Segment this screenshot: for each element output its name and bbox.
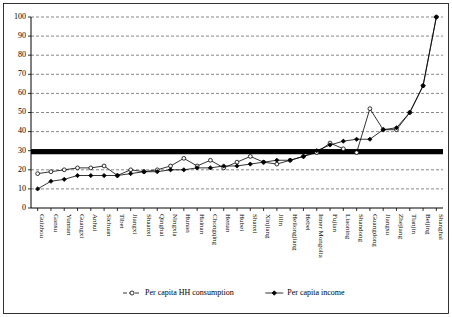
data-point bbox=[76, 166, 80, 170]
x-tick-label: Yunnan bbox=[65, 214, 73, 236]
y-tick-label: 60 bbox=[18, 88, 26, 97]
x-tick-label: Tianjin bbox=[410, 214, 418, 234]
data-point bbox=[49, 170, 53, 174]
national-average-bar bbox=[31, 149, 443, 154]
data-series-group bbox=[36, 15, 439, 191]
x-tick-label: Qinghai bbox=[158, 214, 166, 237]
y-tick-label: 80 bbox=[18, 50, 26, 59]
x-tick-label: Jiangsu bbox=[384, 214, 392, 236]
data-point bbox=[275, 158, 279, 162]
y-axis-labels-group: 0102030405060708090100 bbox=[14, 12, 26, 212]
x-tick-label: Hubei bbox=[238, 214, 246, 231]
data-point bbox=[209, 158, 213, 162]
data-point bbox=[368, 107, 372, 111]
legend: Per capita HH consumptionPer capita inco… bbox=[123, 288, 345, 297]
reference-bar-group bbox=[31, 149, 443, 154]
x-tick-label: Hunan bbox=[184, 214, 192, 233]
x-tick-label: Liaoning bbox=[344, 214, 352, 240]
x-tick-label: Anhui bbox=[91, 214, 99, 232]
data-point bbox=[62, 177, 66, 181]
chart-container: 0102030405060708090100 GuizhouGansuYunna… bbox=[0, 0, 452, 317]
legend-marker-open-circle bbox=[130, 291, 134, 295]
x-tick-label: Heilongjiang bbox=[291, 214, 299, 251]
data-point bbox=[341, 147, 345, 151]
data-point bbox=[89, 166, 93, 170]
x-tick-label: Shandong bbox=[357, 214, 365, 243]
x-tick-label: Ningxia bbox=[171, 214, 179, 237]
data-point bbox=[168, 168, 172, 172]
data-point bbox=[355, 151, 359, 155]
x-tick-label: Chongqing bbox=[211, 214, 219, 246]
x-axis-labels-group: GuizhouGansuYunnanGuangxiAnhuiSichuanTib… bbox=[38, 214, 445, 259]
x-tick-label: Henan bbox=[224, 214, 232, 233]
legend-marker-solid-diamond bbox=[272, 291, 276, 295]
x-tick-label: Tibet bbox=[118, 214, 126, 229]
x-tick-label: Inner Mongolia bbox=[317, 214, 325, 259]
data-point bbox=[248, 162, 252, 166]
y-tick-label: 70 bbox=[18, 69, 26, 78]
y-tick-label: 90 bbox=[18, 31, 26, 40]
x-tick-label: Fujian bbox=[331, 214, 339, 232]
y-tick-label: 20 bbox=[18, 165, 26, 174]
data-point bbox=[62, 168, 66, 172]
x-tick-label: Guizhou bbox=[38, 214, 46, 239]
x-tick-label: Hainan bbox=[198, 214, 206, 235]
x-tick-label: Jiangxi bbox=[131, 214, 139, 234]
data-point bbox=[102, 164, 106, 168]
data-point bbox=[36, 187, 40, 191]
data-point bbox=[182, 168, 186, 172]
x-tick-label: Sichuan bbox=[105, 214, 113, 237]
y-tick-label: 10 bbox=[18, 184, 26, 193]
data-point bbox=[36, 172, 40, 176]
data-point bbox=[355, 137, 359, 141]
y-tick-label: 0 bbox=[22, 203, 26, 212]
chart-svg: 0102030405060708090100 GuizhouGansuYunna… bbox=[0, 0, 452, 317]
x-tick-label: Jilin bbox=[277, 214, 285, 227]
x-tick-label: Beijing bbox=[424, 214, 432, 235]
x-tick-label: Gansu bbox=[52, 214, 60, 232]
y-tick-label: 40 bbox=[18, 126, 26, 135]
legend-label-1: Per capita HH consumption bbox=[145, 288, 234, 297]
x-tick-label: Guangdong bbox=[371, 214, 379, 247]
y-tick-label: 30 bbox=[18, 146, 26, 155]
x-tick-label: Zhejiang bbox=[397, 214, 405, 239]
legend-label-2: Per capita income bbox=[287, 288, 345, 297]
data-point bbox=[341, 139, 345, 143]
x-tick-label: Hebei bbox=[304, 214, 312, 231]
plot-frame bbox=[4, 4, 449, 314]
data-point bbox=[49, 179, 53, 183]
y-tick-label: 100 bbox=[14, 12, 26, 21]
x-tick-label: Shanxi bbox=[251, 214, 259, 234]
x-tick-label: Shaanxi bbox=[145, 214, 153, 237]
x-tick-label: Shanghai bbox=[437, 214, 445, 240]
x-tick-label: Xinjiang bbox=[264, 214, 272, 239]
data-point bbox=[248, 155, 252, 159]
y-tick-label: 50 bbox=[18, 107, 26, 116]
data-point bbox=[129, 172, 133, 176]
data-point bbox=[102, 173, 106, 177]
data-point bbox=[208, 166, 212, 170]
data-point bbox=[182, 156, 186, 160]
data-point bbox=[75, 173, 79, 177]
outer-border bbox=[4, 4, 449, 314]
data-point bbox=[235, 164, 239, 168]
x-tick-label: Guangxi bbox=[78, 214, 86, 238]
data-point bbox=[89, 173, 93, 177]
